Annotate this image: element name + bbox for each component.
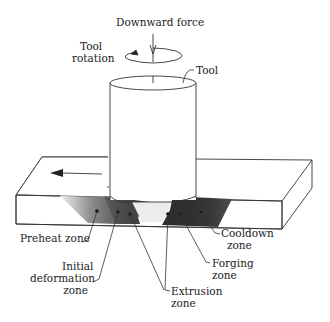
preheat-zone-label: Preheat zone [20,232,90,244]
downward-force-label: Downward force [116,16,204,28]
tool-rotation-label-line1: Tool [80,40,102,52]
cooldown-zone-label-line2: zone [227,239,252,251]
extrusion-zone-label-line2: zone [171,297,196,309]
initial-deformation-label-line3: zone [58,284,88,296]
initial-deformation-label-line1: Initial [62,260,88,272]
rotation-arrow [125,48,182,63]
initial-deformation-label-line2: deformation [30,272,88,284]
tool-rotation-label-line2: rotation [72,52,114,64]
cooldown-zone-label-line1: Cooldown [221,227,274,239]
tool-body [110,80,196,200]
tool [110,76,196,202]
forging-zone-label-line2: zone [212,269,237,281]
forging-zone-label-line1: Forging [212,257,254,269]
tool-label: Tool [196,64,218,76]
extrusion-zone-label-line1: Extrusion [171,285,222,297]
